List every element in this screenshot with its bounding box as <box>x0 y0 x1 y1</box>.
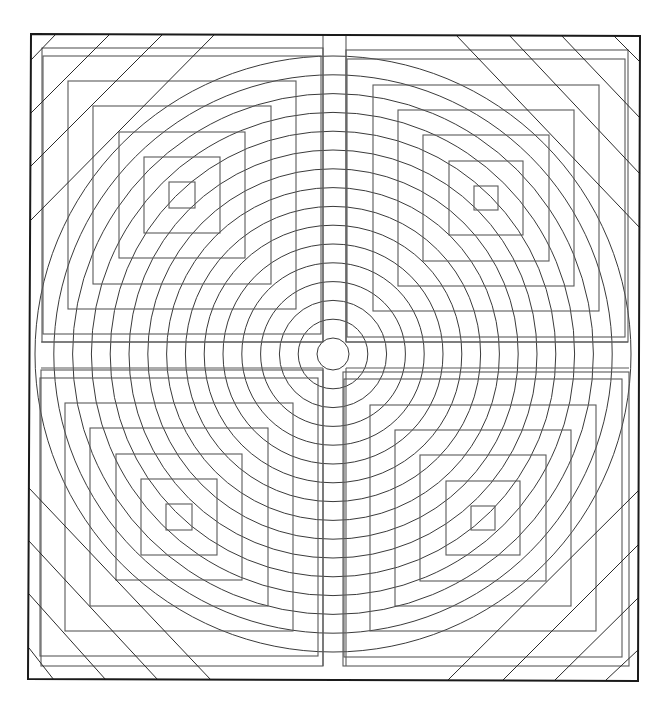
nested-square <box>90 428 268 606</box>
concentric-circle <box>73 94 594 615</box>
nested-square <box>119 132 245 258</box>
diagonal-line-bottom-right <box>448 491 638 680</box>
diagonal-line-top-right <box>613 35 640 62</box>
diagonal-line-top-right <box>456 35 640 228</box>
nested-square <box>116 454 242 580</box>
outer-square-top-left <box>42 48 323 342</box>
concentric-circles <box>35 34 631 666</box>
diagonal-line-bottom-left <box>29 488 211 680</box>
nested-square <box>166 504 192 530</box>
diagonal-line-bottom-left <box>29 541 158 680</box>
nested-square <box>420 455 546 581</box>
concentric-circle <box>242 263 424 445</box>
concentric-circle <box>317 338 349 370</box>
quadrant-bottom-right <box>344 379 622 657</box>
nested-square <box>423 135 549 261</box>
concentric-circle <box>129 150 537 558</box>
nested-square <box>474 186 498 210</box>
concentric-circle <box>148 169 518 539</box>
concentric-circle <box>35 56 631 652</box>
quadrant-bottom-left <box>40 378 318 656</box>
concentric-circle <box>54 75 612 633</box>
concentric-circle <box>204 225 462 483</box>
concentric-circle <box>223 244 443 464</box>
nested-square <box>40 378 318 656</box>
nested-square <box>65 403 293 631</box>
nested-square <box>169 182 195 208</box>
concentric-circle <box>110 131 556 577</box>
diagonal-line-top-left <box>31 34 215 220</box>
concentric-circle <box>167 188 500 521</box>
nested-square <box>141 479 217 555</box>
diagonal-line-top-left <box>31 34 163 166</box>
nested-square <box>370 405 596 631</box>
quadrant-top-right <box>347 59 625 337</box>
nested-square <box>144 157 220 233</box>
nested-square <box>395 430 571 606</box>
nested-square <box>93 106 271 284</box>
nested-square <box>68 81 296 309</box>
nested-square <box>449 161 523 235</box>
concentric-circle <box>91 112 574 595</box>
nested-square <box>347 59 625 337</box>
nested-square <box>344 379 622 657</box>
nested-square <box>398 110 574 286</box>
geometric-diagram <box>0 0 672 707</box>
quadrant-top-left <box>43 56 321 334</box>
concentric-circle <box>185 206 480 501</box>
concentric-circle <box>279 300 386 407</box>
nested-square <box>43 56 321 334</box>
